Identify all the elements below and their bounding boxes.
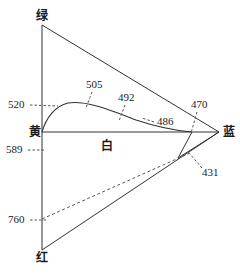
wavelength-label-589: 589 [6,144,23,155]
vertex-label-red: 红 [36,252,48,264]
wavelength-label-486: 486 [157,116,174,127]
wavelength-label-431: 431 [202,167,219,178]
leader-486 [142,118,154,122]
wavelength-label-492: 492 [118,92,135,103]
tick-leader-520 [30,105,58,106]
wavelength-label-760: 760 [8,214,25,225]
chromaticity-diagram: 绿 黄 白 蓝 红 520 589 760 505 492 486 470 43… [0,0,240,275]
vertex-label-white: 白 [101,140,113,152]
leader-431 [190,154,202,168]
leader-492 [119,105,125,121]
green-blue-edge [42,25,219,132]
vertex-label-blue: 蓝 [223,126,235,138]
wavelength-label-470: 470 [191,99,208,110]
red-blue-edge [42,132,219,250]
vertex-label-yellow: 黄 [29,126,41,138]
vertex-label-green: 绿 [36,10,48,22]
wavelength-label-505: 505 [86,79,103,90]
purple-line-return [178,132,219,158]
wavelength-label-520: 520 [8,99,25,110]
complementary-dashed-line [42,153,190,219]
leader-505 [86,92,92,108]
